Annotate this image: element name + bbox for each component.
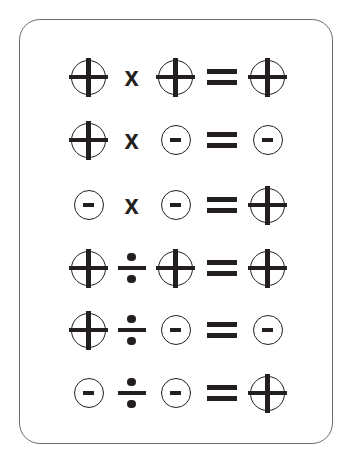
operand-b (152, 125, 200, 155)
result (244, 251, 292, 286)
sign-horizontal-bar (170, 391, 181, 396)
equals-bar-top (207, 197, 237, 202)
operator (112, 377, 152, 409)
sign-vertical-bar (265, 374, 269, 413)
equation-list: xxx (0, 0, 357, 464)
positive-sign-icon (158, 60, 193, 95)
operand-a (66, 60, 112, 95)
sign-vertical-bar (86, 58, 90, 97)
operand-b (152, 251, 200, 286)
division-bar (118, 328, 146, 332)
division-dot-top (127, 253, 136, 262)
operator: x (112, 64, 152, 91)
equation-row (0, 244, 357, 292)
division-operator-icon (118, 252, 146, 284)
equals-bar-bottom (207, 396, 237, 401)
sign-vertical-bar (86, 121, 90, 160)
division-dot-bottom (127, 400, 136, 409)
equals (200, 196, 244, 214)
equals-sign-icon (207, 259, 237, 277)
division-bar (118, 266, 146, 270)
equals (200, 321, 244, 339)
negative-sign-icon (161, 378, 191, 408)
sign-vertical-bar (265, 186, 269, 225)
division-dot-bottom (127, 337, 136, 346)
result (244, 315, 292, 345)
negative-sign-icon (74, 378, 104, 408)
division-operator-icon (118, 314, 146, 346)
operand-b (152, 378, 200, 408)
operator: x (112, 192, 152, 219)
division-bar (118, 391, 146, 395)
sign-vertical-bar (86, 249, 90, 288)
positive-sign-icon (71, 60, 106, 95)
sign-horizontal-bar (262, 328, 273, 333)
positive-sign-icon (71, 123, 106, 158)
equals-sign-icon (207, 68, 237, 86)
equals-bar-bottom (207, 271, 237, 276)
sign-horizontal-bar (170, 203, 181, 208)
equation-row: x (0, 181, 357, 229)
sign-horizontal-bar (170, 328, 181, 333)
result (244, 376, 292, 411)
equals-bar-top (207, 385, 237, 390)
equals-sign-icon (207, 384, 237, 402)
equals-sign-icon (207, 196, 237, 214)
equals-bar-bottom (207, 143, 237, 148)
positive-sign-icon (71, 313, 106, 348)
sign-horizontal-bar (83, 203, 94, 208)
operator (112, 314, 152, 346)
equals-bar-bottom (207, 80, 237, 85)
operand-a (66, 190, 112, 220)
equals (200, 259, 244, 277)
sign-horizontal-bar (170, 138, 181, 143)
sign-vertical-bar (86, 311, 90, 350)
positive-sign-icon (71, 251, 106, 286)
operand-a (66, 251, 112, 286)
positive-sign-icon (250, 251, 285, 286)
equals-bar-top (207, 132, 237, 137)
division-dot-bottom (127, 275, 136, 284)
division-dot-top (127, 378, 136, 387)
negative-sign-icon (74, 190, 104, 220)
sign-vertical-bar (173, 249, 177, 288)
operand-a (66, 313, 112, 348)
equals-sign-icon (207, 321, 237, 339)
negative-sign-icon (161, 190, 191, 220)
equals (200, 131, 244, 149)
operand-b (152, 315, 200, 345)
result (244, 125, 292, 155)
equals-bar-bottom (207, 333, 237, 338)
positive-sign-icon (158, 251, 193, 286)
operator (112, 252, 152, 284)
operand-a (66, 378, 112, 408)
result (244, 188, 292, 223)
multiplication-operator-icon: x (124, 64, 138, 91)
sign-horizontal-bar (262, 138, 273, 143)
operator: x (112, 127, 152, 154)
equation-row (0, 306, 357, 354)
operand-b (152, 190, 200, 220)
division-operator-icon (118, 377, 146, 409)
sign-vertical-bar (265, 58, 269, 97)
negative-sign-icon (161, 125, 191, 155)
negative-sign-icon (253, 125, 283, 155)
sign-horizontal-bar (83, 391, 94, 396)
positive-sign-icon (250, 376, 285, 411)
equals-bar-top (207, 260, 237, 265)
multiplication-operator-icon: x (124, 192, 138, 219)
positive-sign-icon (250, 188, 285, 223)
equals (200, 384, 244, 402)
equals-sign-icon (207, 131, 237, 149)
operand-b (152, 60, 200, 95)
sign-vertical-bar (265, 249, 269, 288)
negative-sign-icon (253, 315, 283, 345)
equals-bar-bottom (207, 208, 237, 213)
equation-row: x (0, 116, 357, 164)
equals-bar-top (207, 322, 237, 327)
operand-a (66, 123, 112, 158)
equation-row: x (0, 53, 357, 101)
multiplication-operator-icon: x (124, 127, 138, 154)
equation-row (0, 369, 357, 417)
equals (200, 68, 244, 86)
